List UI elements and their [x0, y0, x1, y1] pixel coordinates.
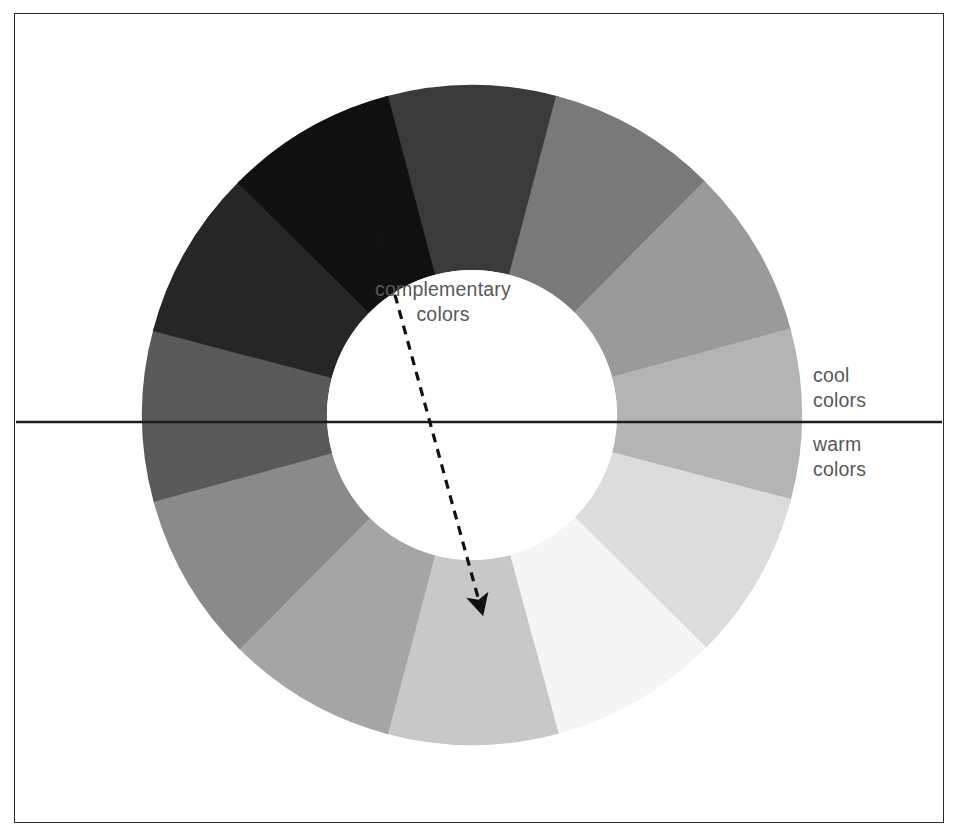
complementary-colors-label: complementary colors	[375, 277, 511, 327]
color-wheel-figure: complementary colors cool colors warm co…	[0, 0, 961, 840]
warm-colors-label: warm colors	[813, 432, 866, 482]
color-wheel-graphic	[0, 0, 961, 840]
cool-colors-label: cool colors	[813, 363, 866, 413]
